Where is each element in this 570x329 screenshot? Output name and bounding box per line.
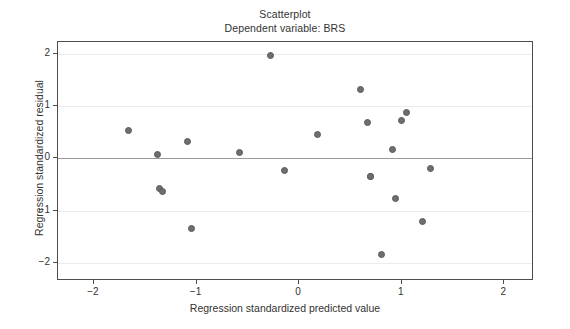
x-tick-mark bbox=[401, 280, 402, 284]
x-tick-label: 1 bbox=[381, 286, 421, 297]
x-axis-label: Regression standardized predicted value bbox=[0, 302, 570, 314]
data-point bbox=[188, 225, 195, 232]
data-point bbox=[357, 86, 364, 93]
scatterplot-figure: Scatterplot Dependent variable: BRS Regr… bbox=[0, 0, 570, 329]
data-point bbox=[403, 109, 410, 116]
x-tick-label: −1 bbox=[176, 286, 216, 297]
x-tick-label: 2 bbox=[483, 286, 523, 297]
data-point bbox=[389, 146, 396, 153]
data-point bbox=[419, 218, 426, 225]
y-tick-label: 1 bbox=[10, 100, 50, 110]
y-tick-label: −2 bbox=[10, 257, 50, 267]
chart-subtitle: Dependent variable: BRS bbox=[0, 21, 570, 35]
y-tick-label: −1 bbox=[10, 205, 50, 215]
data-point bbox=[314, 131, 321, 138]
chart-title: Scatterplot bbox=[0, 7, 570, 21]
y-tick-mark bbox=[53, 157, 57, 158]
y-tick-mark bbox=[53, 262, 57, 263]
gridline bbox=[58, 263, 532, 264]
data-point bbox=[154, 151, 161, 158]
y-tick-mark bbox=[53, 210, 57, 211]
x-tick-mark bbox=[298, 280, 299, 284]
data-point bbox=[236, 149, 243, 156]
data-point bbox=[364, 119, 371, 126]
data-point bbox=[267, 52, 274, 59]
y-tick-label: 2 bbox=[10, 48, 50, 58]
y-tick-mark bbox=[53, 105, 57, 106]
x-tick-mark bbox=[93, 280, 94, 284]
x-tick-label: −2 bbox=[73, 286, 113, 297]
data-point bbox=[159, 188, 166, 195]
chart-title-block: Scatterplot Dependent variable: BRS bbox=[0, 7, 570, 35]
data-point bbox=[281, 167, 288, 174]
data-point bbox=[378, 251, 385, 258]
x-tick-mark bbox=[503, 280, 504, 284]
zero-reference-line bbox=[58, 158, 532, 159]
gridline bbox=[58, 106, 532, 107]
y-tick-mark bbox=[53, 53, 57, 54]
gridline bbox=[58, 211, 532, 212]
x-tick-label: 0 bbox=[278, 286, 318, 297]
gridline bbox=[58, 54, 532, 55]
data-point bbox=[427, 165, 434, 172]
data-point bbox=[398, 117, 405, 124]
y-tick-label: 0 bbox=[10, 152, 50, 162]
data-point bbox=[367, 173, 374, 180]
plot-area bbox=[57, 41, 533, 280]
data-point bbox=[392, 195, 399, 202]
x-tick-mark bbox=[196, 280, 197, 284]
data-point bbox=[125, 127, 132, 134]
data-point bbox=[184, 138, 191, 145]
